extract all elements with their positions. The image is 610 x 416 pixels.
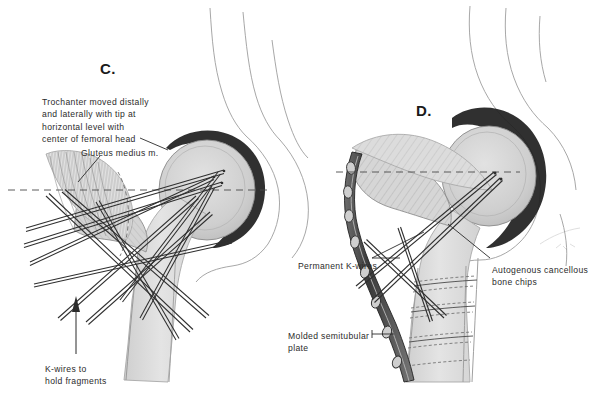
molded-plate-label: Molded semitubular plate (288, 330, 369, 355)
trochanter-note-label: Trochanter moved distally and laterally … (42, 96, 149, 146)
panel-d-drawing (336, 6, 580, 382)
permanent-k-wires-label: Permanent K-wires (298, 260, 377, 272)
panel-letter-d: D. (416, 102, 432, 119)
gluteus-medius-label: Gluteus medius m. (81, 147, 159, 159)
panel-letter-c: C. (100, 60, 116, 77)
figure-root: C. Trochanter moved distally and lateral… (0, 0, 610, 416)
artist-signature-mark (540, 228, 580, 250)
leader-permanent-wires-d (372, 232, 424, 258)
autogenous-bone-chips-label: Autogenous cancellous bone chips (492, 264, 588, 289)
k-wires-fragments-label: K-wires to hold fragments (45, 363, 107, 388)
panel-c-drawing (8, 8, 308, 382)
